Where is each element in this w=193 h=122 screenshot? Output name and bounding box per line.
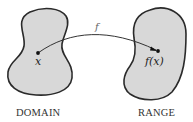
range-point (156, 49, 160, 53)
range-point-label: f(x) (144, 55, 164, 68)
function-label: f (94, 21, 101, 32)
range-region (124, 8, 186, 100)
domain-point-label: x (35, 55, 42, 68)
range-caption: RANGE (138, 107, 175, 118)
domain-caption: DOMAIN (16, 107, 61, 118)
function-mapping-diagram: x f(x) f DOMAIN RANGE (0, 0, 193, 122)
